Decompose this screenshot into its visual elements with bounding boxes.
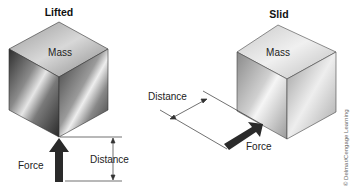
work-diagram: Lifted Mass Distance Force Slid Mass [0, 0, 354, 189]
slid-panel: Slid Mass Distance Force [148, 8, 336, 152]
lifted-force-arrow [49, 138, 69, 182]
slid-distance-label: Distance [148, 91, 187, 102]
slid-mass-label: Mass [266, 47, 290, 58]
lifted-mass-label: Mass [48, 47, 72, 58]
lifted-cube [9, 22, 108, 137]
lifted-title: Lifted [45, 6, 74, 18]
slid-title: Slid [269, 8, 288, 20]
slid-cube [237, 25, 336, 139]
lifted-distance-label: Distance [90, 154, 129, 165]
slid-force-label: Force [246, 141, 272, 152]
copyright-credit: © Delmar/Cengage Learning [343, 110, 349, 186]
lifted-panel: Lifted Mass Distance Force [9, 6, 129, 182]
lifted-force-label: Force [18, 160, 44, 171]
